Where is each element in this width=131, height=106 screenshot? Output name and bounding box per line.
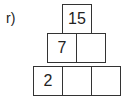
- pyramid-cell-mid-left[interactable]: 7: [47, 33, 77, 63]
- pyramid-cell-top[interactable]: 15: [62, 4, 92, 34]
- pyramid-cell-mid-right[interactable]: [76, 33, 106, 63]
- pyramid-cell-bottom-right[interactable]: [91, 66, 121, 96]
- pyramid-cell-bottom-left[interactable]: 2: [33, 66, 63, 96]
- pyramid-cell-bottom-middle[interactable]: [62, 66, 92, 96]
- exercise-label: r): [6, 10, 15, 26]
